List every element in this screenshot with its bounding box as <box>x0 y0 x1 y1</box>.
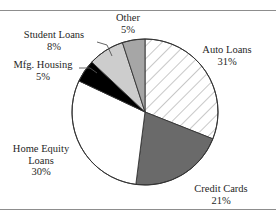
slice-label-home-equity-line1: Home Equity <box>13 143 69 154</box>
slice-label-student-loans: Student Loans 8% <box>6 29 102 52</box>
pie-chart-figure: Other 5% Student Loans 8% Mfg. Housing 5… <box>0 0 276 221</box>
slice-label-credit-cards: Credit Cards 21% <box>180 183 262 206</box>
slice-label-student-loans-pct: 8% <box>6 41 102 53</box>
slice-label-mfg-housing-pct: 5% <box>2 71 84 83</box>
slice-label-mfg-housing-name: Mfg. Housing <box>14 59 73 70</box>
slice-label-credit-cards-name: Credit Cards <box>194 183 247 194</box>
slice-label-home-equity-pct: 30% <box>2 166 80 178</box>
slice-label-auto-loans: Auto Loans 31% <box>190 44 264 67</box>
slice-label-home-equity-loans: Home Equity Loans 30% <box>2 143 80 178</box>
slice-label-mfg-housing: Mfg. Housing 5% <box>2 59 84 82</box>
slice-label-other-name: Other <box>116 12 140 23</box>
slice-label-home-equity-line2: Loans <box>2 155 80 167</box>
slice-label-other-pct: 5% <box>102 24 154 36</box>
slice-label-auto-loans-pct: 31% <box>190 56 264 68</box>
slice-label-auto-loans-name: Auto Loans <box>202 44 251 55</box>
slice-label-credit-cards-pct: 21% <box>180 195 262 207</box>
slice-label-other: Other 5% <box>102 12 154 35</box>
slice-label-student-loans-name: Student Loans <box>24 29 84 40</box>
